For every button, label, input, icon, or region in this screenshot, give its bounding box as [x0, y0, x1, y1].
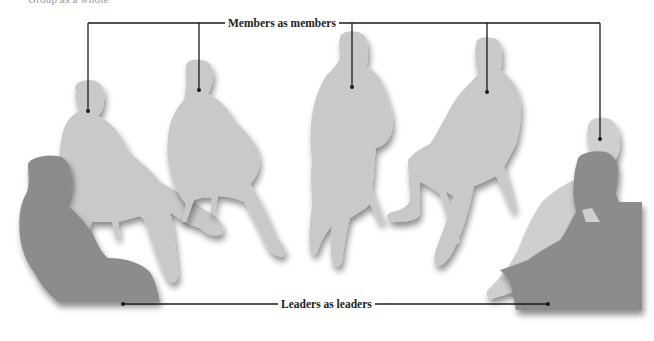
group-diagram	[0, 0, 654, 341]
leaders-as-leaders-label: Leaders as leaders	[278, 297, 375, 311]
leader-silhouette-right	[500, 151, 642, 310]
member-silhouette-2	[167, 59, 285, 256]
members-as-members-label: Members as members	[225, 16, 339, 30]
member-silhouette-4	[387, 37, 521, 266]
member-silhouette-3	[309, 31, 393, 266]
